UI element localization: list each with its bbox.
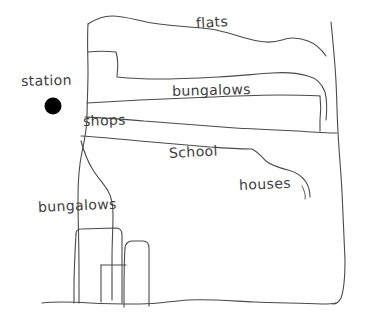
bungalows-band-right-edge — [320, 96, 321, 131]
building-block-a-left-wall — [74, 234, 76, 303]
map-label-houses: houses — [239, 176, 291, 192]
map-line-art — [0, 0, 367, 324]
boundary-bottom-edge — [42, 300, 336, 304]
map-label-bungalows-north: bungalows — [172, 82, 251, 98]
map-label-bungalows-south: bungalows — [38, 197, 117, 214]
building-block-b-left-wall — [124, 248, 125, 307]
bungalows-south-plot-outline — [81, 141, 113, 300]
sketch-map-canvas: flats station bungalows shops School hou… — [0, 0, 367, 324]
station-marker-dot — [45, 98, 62, 115]
boundary-left-edge — [78, 24, 88, 303]
map-label-station: station — [21, 73, 72, 88]
map-label-shops: shops — [83, 113, 126, 128]
houses-zone-tick — [302, 186, 305, 199]
map-label-school: School — [169, 143, 219, 160]
building-block-b — [125, 241, 149, 306]
map-label-flats: flats — [196, 14, 229, 30]
boundary-right-edge — [331, 22, 345, 304]
